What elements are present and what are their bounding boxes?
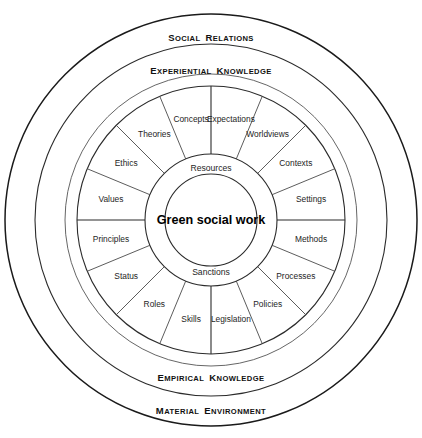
hub-label-resources: Resources xyxy=(190,163,231,173)
wheel-segment-label-policies: Policies xyxy=(253,299,282,309)
band-label-experiential-knowledge: EXPERIENTIAL KNOWLEDGE xyxy=(150,65,272,76)
band-label-social-relations: SOCIAL RELATIONS xyxy=(168,32,254,43)
wheel-spoke xyxy=(272,169,335,195)
wheel-segment-label-theories: Theories xyxy=(138,129,171,139)
diagram-canvas: ValuesEthicsTheoriesConceptsExpectations… xyxy=(0,0,422,438)
wheel-segment-label-settings: Settings xyxy=(296,194,326,204)
wheel-spoke xyxy=(160,281,186,344)
wheel-spoke xyxy=(87,245,150,271)
wheel-segment-label-ethics: Ethics xyxy=(115,158,138,168)
wheel-spoke xyxy=(236,96,262,159)
wheel-segment-label-legislation: Legislation xyxy=(211,314,251,324)
wheel-segment-label-principles: Principles xyxy=(93,234,129,244)
band-label-empirical-knowledge: EMPIRICAL KNOWLEDGE xyxy=(158,372,265,383)
green-social-work-diagram: ValuesEthicsTheoriesConceptsExpectations… xyxy=(0,0,422,438)
wheel-segment-label-status: Status xyxy=(114,271,138,281)
wheel-segment-label-roles: Roles xyxy=(144,299,165,309)
wheel-spoke xyxy=(160,96,186,159)
wheel-segment-label-methods: Methods xyxy=(295,234,327,244)
wheel-segment-label-skills: Skills xyxy=(181,314,201,324)
wheel-spoke xyxy=(87,169,150,195)
band-label-material-environment: MATERIAL ENVIRONMENT xyxy=(156,405,266,416)
core-label-green-social-work: Green social work xyxy=(157,213,266,227)
wheel-segment-label-concepts: Concepts xyxy=(173,114,208,124)
wheel-spoke xyxy=(236,281,262,344)
wheel-segment-label-expectations: Expectations xyxy=(207,114,255,124)
wheel-segment-label-worldviews: Worldviews xyxy=(246,129,289,139)
wheel-segment-label-processes: Processes xyxy=(276,271,315,281)
wheel-spoke xyxy=(272,245,335,271)
wheel-segment-label-values: Values xyxy=(98,194,123,204)
wheel-segment-label-contexts: Contexts xyxy=(279,158,312,168)
hub-label-sanctions: Sanctions xyxy=(192,267,230,277)
